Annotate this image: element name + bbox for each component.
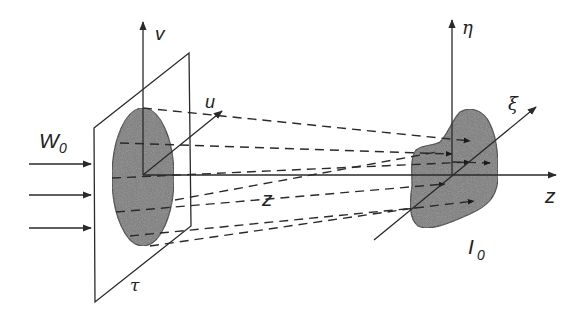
- diagram-canvas: v u W 0 τ z z η ξ I 0: [0, 0, 584, 316]
- output-intensity-shape: [410, 109, 498, 228]
- diagram-svg: v u W 0 τ z z η ξ I 0: [0, 0, 584, 316]
- label-u: u: [205, 92, 215, 112]
- label-xi: ξ: [508, 93, 519, 114]
- label-i-sub: 0: [477, 247, 485, 263]
- label-axis-z: z: [544, 184, 556, 207]
- label-w: W: [39, 129, 61, 152]
- label-tau: τ: [130, 275, 140, 295]
- label-v: v: [155, 23, 166, 44]
- label-w-sub: 0: [59, 140, 67, 156]
- label-distance-z: z: [261, 187, 273, 210]
- incoming-wave-arrows: [29, 164, 91, 228]
- label-i: I: [468, 235, 474, 258]
- label-eta: η: [462, 17, 473, 38]
